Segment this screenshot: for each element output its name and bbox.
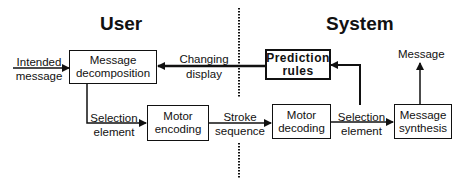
- connector-lines: [0, 0, 465, 180]
- prediction-rules-box: Predictionrules: [265, 49, 331, 80]
- section-title-system: System: [326, 13, 394, 35]
- label-stroke-sequence: Stroke sequence: [215, 111, 265, 138]
- message-decomposition-box: Messagedecomposition: [69, 50, 157, 84]
- label-intended-message: Intended message: [14, 56, 64, 83]
- label-selection-element-user: Selection element: [89, 112, 139, 139]
- motor-decoding-box: Motordecoding: [272, 104, 331, 139]
- label-changing-display: Changing display: [175, 54, 233, 81]
- section-title-user: User: [100, 13, 142, 35]
- motor-encoding-box: Motorencoding: [147, 105, 209, 141]
- message-synthesis-box: Messagesynthesis: [394, 104, 452, 139]
- label-selection-element-system: Selection element: [334, 111, 389, 138]
- label-message-output: Message: [398, 48, 444, 61]
